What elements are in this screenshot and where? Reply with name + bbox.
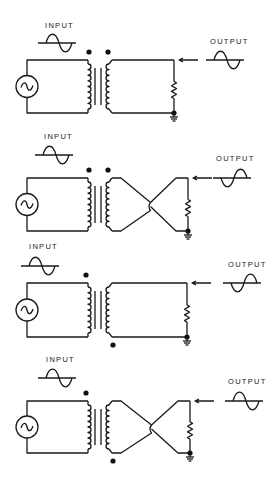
resistor-icon — [186, 200, 191, 217]
primary-winding — [88, 182, 91, 227]
secondary-straight-wires — [112, 60, 174, 113]
resistor-icon — [172, 82, 177, 99]
ground-icon — [183, 337, 191, 345]
input-label: INPUT — [45, 21, 74, 30]
arrow-left-icon — [195, 399, 214, 403]
secondary-winding — [106, 64, 109, 109]
primary-loop-wire — [27, 283, 88, 337]
primary-winding — [88, 287, 91, 333]
arrow-left-icon — [193, 176, 212, 180]
primary-winding — [88, 405, 91, 449]
ground-icon — [186, 453, 194, 461]
polarity-dot-secondary — [105, 167, 110, 172]
secondary-winding — [106, 182, 109, 227]
primary-loop-wire — [27, 401, 88, 453]
secondary-straight-wires — [112, 283, 187, 337]
secondary-winding — [106, 405, 109, 449]
arrow-left-icon — [179, 58, 198, 62]
polarity-dot-primary — [83, 272, 88, 277]
polarity-dot-secondary — [110, 458, 115, 463]
resistor-icon — [188, 422, 193, 439]
polarity-dot-primary — [86, 49, 91, 54]
circuit-panel: INPUTOUTPUT — [16, 132, 255, 239]
secondary-crossed-wire-b — [151, 178, 189, 231]
output-label: OUTPUT — [210, 37, 249, 46]
output-label: OUTPUT — [216, 154, 255, 163]
primary-winding — [88, 64, 91, 109]
ac-source-icon — [16, 76, 38, 98]
output-label: OUTPUT — [228, 377, 267, 386]
polarity-dot-secondary — [110, 342, 115, 347]
ac-source-icon — [16, 416, 38, 438]
primary-loop-wire — [27, 178, 88, 231]
polarity-dot-secondary — [105, 49, 110, 54]
resistor-icon — [185, 305, 190, 322]
circuit-panel: INPUTOUTPUT — [16, 242, 267, 348]
ground-icon — [170, 113, 178, 121]
circuit-panel: INPUTOUTPUT — [16, 21, 249, 121]
output-label: OUTPUT — [228, 260, 267, 269]
polarity-dot-primary — [86, 167, 91, 172]
ground-icon — [184, 231, 192, 239]
secondary-winding — [106, 287, 109, 333]
polarity-dot-primary — [83, 390, 88, 395]
input-label: INPUT — [44, 132, 73, 141]
secondary-crossed-wire-b — [152, 401, 191, 453]
transformer-phasing-diagram: INPUTOUTPUTINPUTOUTPUTINPUTOUTPUTINPUTOU… — [0, 0, 275, 488]
input-label: INPUT — [29, 242, 58, 251]
arrow-left-icon — [192, 281, 211, 285]
primary-loop-wire — [27, 60, 88, 113]
secondary-crossed-wire-a — [112, 401, 152, 453]
ac-source-icon — [16, 194, 38, 216]
input-label: INPUT — [46, 355, 75, 364]
ac-source-icon — [16, 299, 38, 321]
circuit-panel: INPUTOUTPUT — [16, 355, 267, 464]
secondary-crossed-wire-a — [112, 178, 151, 231]
